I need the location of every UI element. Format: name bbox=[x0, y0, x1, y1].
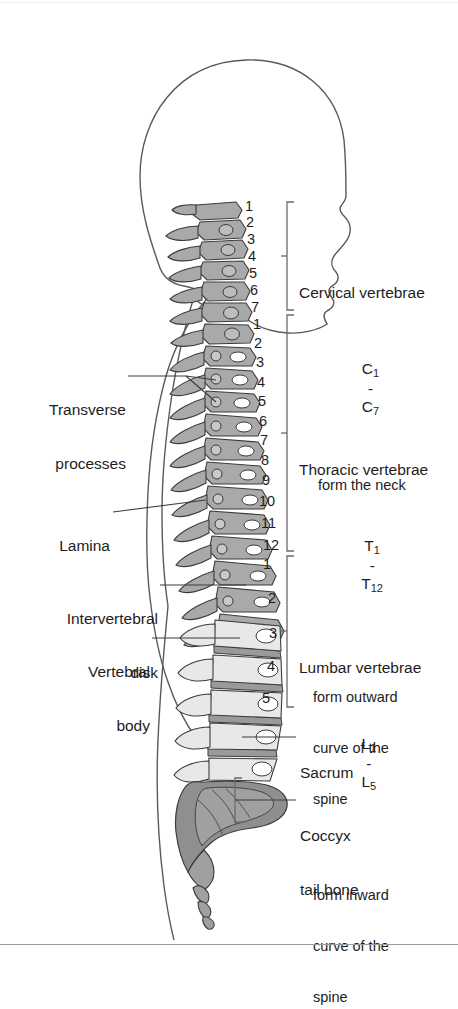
cervical-vertebrae-group bbox=[166, 202, 254, 346]
range-to: T12 bbox=[361, 575, 383, 592]
region-title: Thoracic vertebrae bbox=[299, 461, 428, 479]
vertebra-number-t10: 10 bbox=[259, 494, 275, 509]
vertebra-number-t9: 9 bbox=[262, 473, 270, 488]
bracket-cervical bbox=[281, 202, 294, 310]
range-to: C7 bbox=[362, 398, 379, 415]
vertebra-c4 bbox=[169, 261, 249, 282]
range-dash: - bbox=[362, 755, 376, 772]
label-line: Lamina bbox=[0, 537, 110, 555]
label-vertebral-body: Vertebral body bbox=[0, 626, 150, 754]
vertebra-number-c2: 2 bbox=[246, 215, 254, 230]
label-line: body bbox=[0, 717, 150, 735]
bracket-thoracic bbox=[281, 315, 294, 551]
vertebra-number-t11: 11 bbox=[261, 516, 276, 531]
vertebra-number-c5: 5 bbox=[249, 266, 257, 281]
vertebra-number-c4: 4 bbox=[248, 249, 256, 264]
region-description-line: curve of the bbox=[313, 938, 421, 955]
vertebra-number-c7: 7 bbox=[251, 300, 259, 315]
label-line: Transverse bbox=[0, 401, 126, 419]
vertebra-number-t2: 2 bbox=[254, 336, 262, 351]
vertebra-number-l5: 5 bbox=[262, 691, 270, 706]
label-line: Sacrum bbox=[300, 764, 353, 782]
region-range: T1 - T12 bbox=[299, 519, 428, 614]
range-from: C1 bbox=[362, 360, 379, 377]
vertebra-c3 bbox=[168, 240, 248, 261]
vertebra-l5 bbox=[174, 758, 277, 782]
vertebra-number-t7: 7 bbox=[260, 433, 268, 448]
vertebra-number-c6: 6 bbox=[250, 283, 258, 298]
label-transverse-processes: Transverse processes bbox=[0, 364, 126, 492]
label-lamina: Lamina bbox=[0, 500, 110, 573]
range-dash: - bbox=[365, 557, 379, 574]
label-line: Coccyx bbox=[300, 827, 359, 845]
vertebra-c1 bbox=[172, 202, 242, 220]
range-dash: - bbox=[364, 380, 378, 397]
label-line: processes bbox=[0, 455, 126, 473]
vertebra-c6 bbox=[170, 303, 252, 324]
vertebra-number-t3: 3 bbox=[256, 355, 264, 370]
sacrum-bone bbox=[175, 781, 287, 872]
label-line: tail bone bbox=[300, 881, 359, 899]
vertebra-c7 bbox=[171, 324, 254, 346]
vertebra-number-t4: 4 bbox=[257, 375, 265, 390]
vertebra-number-l3: 3 bbox=[269, 626, 277, 641]
label-line: Vertebral bbox=[0, 663, 150, 681]
vertebra-number-c3: 3 bbox=[247, 232, 255, 247]
vertebra-number-l1: 1 bbox=[263, 557, 271, 572]
region-description-line: spine bbox=[313, 989, 421, 1006]
range-from: T1 bbox=[364, 537, 380, 554]
region-title: Lumbar vertebrae bbox=[299, 659, 421, 677]
region-title: Cervical vertebrae bbox=[299, 284, 425, 302]
vertebra-number-c1: 1 bbox=[245, 199, 253, 214]
label-coccyx: Coccyx tail bone bbox=[300, 790, 359, 918]
range-to: L5 bbox=[361, 773, 376, 790]
vertebra-number-t5: 5 bbox=[258, 394, 266, 409]
vertebra-number-t12: 12 bbox=[263, 538, 279, 553]
bottom-rule bbox=[0, 944, 458, 945]
vertebra-number-l2: 2 bbox=[268, 591, 276, 606]
vertebra-number-l4: 4 bbox=[267, 659, 275, 674]
vertebra-number-t6: 6 bbox=[259, 414, 267, 429]
range-from: L1 bbox=[361, 735, 376, 752]
vertebra-c2 bbox=[166, 220, 246, 240]
bracket-lumbar bbox=[281, 556, 294, 707]
vertebra-number-t1: 1 bbox=[253, 317, 261, 332]
vertebra-number-t8: 8 bbox=[261, 453, 269, 468]
